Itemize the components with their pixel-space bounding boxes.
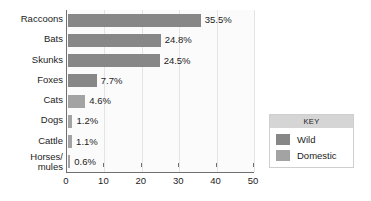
bar-value-label: 1.2% (76, 115, 98, 126)
legend-item-wild: Wild (276, 131, 353, 147)
bar-row: Foxes7.7% (67, 71, 254, 91)
x-axis-tick-label: 10 (88, 175, 118, 186)
category-label: Horses/mules (0, 152, 63, 172)
plot-area: Raccoons35.5%Bats24.8%Skunks24.5%Foxes7.… (66, 10, 254, 173)
x-axis-tick (103, 163, 104, 167)
x-axis-tick (216, 163, 217, 167)
x-axis-tick (66, 163, 67, 167)
rabies-cases-bar-chart: Raccoons35.5%Bats24.8%Skunks24.5%Foxes7.… (0, 0, 371, 201)
bar (68, 14, 201, 27)
bar-value-label: 1.1% (76, 136, 98, 147)
bar (68, 74, 97, 87)
bar-value-label: 35.5% (205, 14, 232, 25)
x-axis-tick-label: 40 (201, 175, 231, 186)
category-label: Skunks (0, 51, 63, 65)
bar-value-label: 7.7% (101, 75, 123, 86)
bar-value-label: 0.6% (74, 156, 96, 167)
legend-item-domestic: Domestic (276, 147, 353, 163)
legend-swatch-wild-icon (276, 134, 290, 145)
legend-label-domestic: Domestic (297, 150, 337, 161)
category-label: Raccoons (0, 10, 63, 24)
bar-row: Raccoons35.5% (67, 10, 254, 30)
category-label: Dogs (0, 111, 63, 125)
bar-row: Skunks24.5% (67, 51, 254, 71)
bar-row: Cattle1.1% (67, 132, 254, 152)
legend-title: KEY (270, 115, 353, 128)
gridline (254, 10, 255, 172)
x-axis-tick-label: 30 (163, 175, 193, 186)
category-label: Bats (0, 30, 63, 44)
legend-label-wild: Wild (297, 134, 315, 145)
legend-swatch-domestic-icon (276, 150, 290, 161)
bar (68, 34, 161, 47)
x-axis-tick (141, 163, 142, 167)
bar-row: Bats24.8% (67, 30, 254, 50)
x-axis-tick-label: 20 (126, 175, 156, 186)
bar (68, 155, 70, 168)
x-axis-tick (178, 163, 179, 167)
category-label: Foxes (0, 71, 63, 85)
bar-value-label: 24.5% (164, 55, 191, 66)
x-axis-tick (253, 163, 254, 167)
x-axis-tick-label: 50 (238, 175, 268, 186)
bar (68, 115, 72, 128)
bar (68, 54, 160, 67)
category-label: Cattle (0, 132, 63, 146)
bar (68, 135, 72, 148)
bar-row: Dogs1.2% (67, 111, 254, 131)
x-axis-tick-label: 0 (51, 175, 81, 186)
legend-entries: Wild Domestic (270, 128, 353, 167)
category-label: Cats (0, 91, 63, 105)
bar-row: Cats4.6% (67, 91, 254, 111)
bar-value-label: 24.8% (165, 34, 192, 45)
bar-row: Horses/mules0.6% (67, 152, 254, 172)
legend: KEY Wild Domestic (269, 114, 354, 168)
bar-value-label: 4.6% (89, 95, 111, 106)
bar (68, 95, 85, 108)
